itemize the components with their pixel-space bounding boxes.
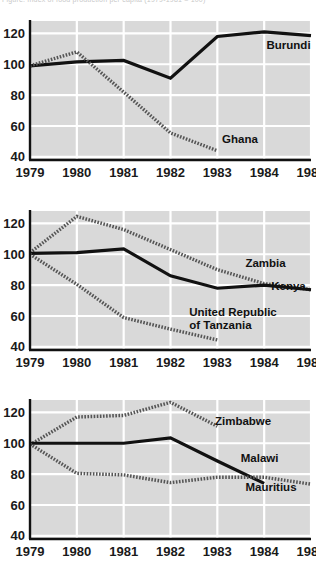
figure-caption-text: Figure. Index of food production per cap… bbox=[0, 0, 205, 3]
x-tick-label: 1984 bbox=[250, 544, 280, 559]
chart-3-svg: ZimbabweMalawiMauritius40608010012019791… bbox=[0, 385, 316, 566]
x-tick-label: 1979 bbox=[16, 544, 45, 559]
series-label-malawi: Malawi bbox=[241, 452, 279, 464]
x-tick-label: 1984 bbox=[250, 165, 280, 180]
x-tick-label: 1985 bbox=[297, 544, 316, 559]
x-tick-label: 1984 bbox=[250, 355, 280, 370]
y-tick-label: 120 bbox=[3, 216, 25, 231]
y-tick-label: 40 bbox=[11, 528, 25, 543]
series-label-mauritius: Mauritius bbox=[245, 481, 296, 493]
x-tick-label: 1985 bbox=[297, 165, 316, 180]
y-tick-label: 60 bbox=[11, 119, 25, 134]
x-tick-label: 1982 bbox=[156, 544, 185, 559]
x-tick-label: 1983 bbox=[203, 355, 232, 370]
x-tick-label: 1979 bbox=[16, 165, 45, 180]
y-tick-label: 120 bbox=[3, 405, 25, 420]
x-tick-label: 1981 bbox=[109, 355, 138, 370]
chart-1-block: BurundiGhana4060801001201979198019811982… bbox=[0, 6, 316, 186]
x-tick-label: 1980 bbox=[62, 165, 91, 180]
x-tick-label: 1979 bbox=[16, 355, 45, 370]
x-tick-label: 1980 bbox=[62, 355, 91, 370]
chart-2-svg: ZambiaKenyaUnited Republicof Tanzania406… bbox=[0, 196, 316, 376]
x-tick-label: 1981 bbox=[109, 165, 138, 180]
food-production-index-figure: Figure. Index of food production per cap… bbox=[0, 0, 316, 566]
series-label-kenya: Kenya bbox=[271, 280, 306, 292]
x-tick-label: 1983 bbox=[203, 544, 232, 559]
y-tick-label: 100 bbox=[3, 436, 25, 451]
x-tick-label: 1982 bbox=[156, 165, 185, 180]
chart-1-svg: BurundiGhana4060801001201979198019811982… bbox=[0, 6, 316, 186]
chart-2-block: ZambiaKenyaUnited Republicof Tanzania406… bbox=[0, 196, 316, 376]
series-label-zambia: Zambia bbox=[245, 257, 286, 269]
y-tick-label: 100 bbox=[3, 247, 25, 262]
series-label-ghana: Ghana bbox=[222, 133, 258, 145]
y-tick-label: 60 bbox=[11, 498, 25, 513]
x-tick-label: 1981 bbox=[109, 544, 138, 559]
y-tick-label: 100 bbox=[3, 57, 25, 72]
x-tick-label: 1980 bbox=[62, 544, 91, 559]
x-tick-label: 1985 bbox=[297, 355, 316, 370]
y-tick-label: 80 bbox=[11, 467, 25, 482]
y-tick-label: 80 bbox=[11, 88, 25, 103]
y-tick-label: 40 bbox=[11, 149, 25, 164]
chart-3-block: ZimbabweMalawiMauritius40608010012019791… bbox=[0, 385, 316, 566]
x-tick-label: 1983 bbox=[203, 165, 232, 180]
series-label-zimbabwe: Zimbabwe bbox=[215, 415, 271, 427]
y-tick-label: 80 bbox=[11, 278, 25, 293]
y-tick-label: 60 bbox=[11, 309, 25, 324]
x-tick-label: 1982 bbox=[156, 355, 185, 370]
series-label-burundi: Burundi bbox=[267, 39, 311, 51]
y-tick-label: 120 bbox=[3, 26, 25, 41]
y-tick-label: 40 bbox=[11, 339, 25, 354]
